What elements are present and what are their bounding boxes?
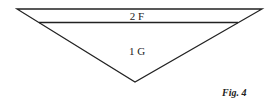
figure-caption: Fig. 4 [221,87,246,98]
region-label-upper-band: 2 F [130,10,144,22]
region-label-lower-triangle: 1 G [129,45,145,57]
triangle-diagram: 2 F 1 G Fig. 4 [0,0,274,105]
